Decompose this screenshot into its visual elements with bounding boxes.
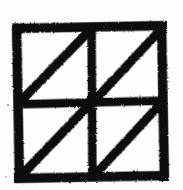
ink-blob-bottom-right bbox=[159, 171, 169, 181]
scan-speck-2 bbox=[5, 176, 7, 178]
scan-speck bbox=[7, 104, 9, 106]
ink-blob-top-left bbox=[12, 23, 23, 33]
divided-square-diagram: Divided square with diagonals A hand-dra… bbox=[0, 0, 183, 190]
ink-blob-bottom-left bbox=[14, 173, 25, 183]
ink-blob-center bbox=[87, 97, 97, 107]
ink-blob-top-right bbox=[157, 21, 167, 31]
figure-canvas: Divided square with diagonals A hand-dra… bbox=[0, 0, 183, 190]
